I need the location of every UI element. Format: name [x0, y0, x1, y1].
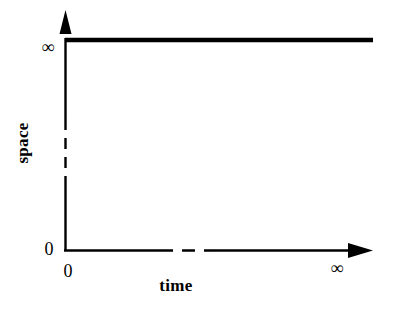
y-axis-title: space — [14, 122, 31, 163]
spacetime-diagram-figure: ∞ 0 0 ∞ space time — [0, 0, 397, 313]
x-axis-tick-zero: 0 — [64, 262, 73, 280]
y-axis-up-arrow-icon — [60, 10, 72, 34]
x-axis-tick-infinity: ∞ — [331, 259, 344, 277]
x-axis-right-arrow-icon — [348, 243, 373, 258]
x-axis-title: time — [159, 277, 192, 294]
y-axis-tick-zero: 0 — [45, 240, 54, 258]
y-axis-tick-infinity: ∞ — [42, 38, 55, 56]
